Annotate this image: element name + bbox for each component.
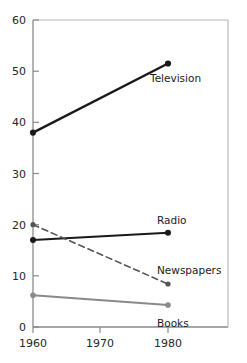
marker-television-1980 bbox=[165, 60, 171, 66]
series-line-television bbox=[33, 63, 168, 132]
y-axis-tick-labels: 60 50 40 30 20 10 0 bbox=[12, 14, 26, 334]
series-labels: Television Radio Newspapers Books bbox=[149, 72, 221, 329]
y-tick-label-0: 0 bbox=[19, 321, 26, 334]
marker-radio-1960 bbox=[30, 237, 36, 243]
series-label-books: Books bbox=[157, 317, 189, 329]
marker-newspapers-1960 bbox=[30, 222, 35, 227]
x-axis-ticks bbox=[33, 327, 168, 333]
chart-svg: 60 50 40 30 20 10 0 1960 1970 1980 bbox=[0, 0, 247, 363]
y-tick-label-30: 30 bbox=[12, 168, 26, 181]
marker-radio-1980 bbox=[165, 230, 171, 236]
x-tick-label-1970: 1970 bbox=[86, 337, 114, 350]
y-tick-label-60: 60 bbox=[12, 14, 26, 27]
series-line-books bbox=[33, 295, 168, 305]
y-tick-label-40: 40 bbox=[12, 116, 26, 129]
line-chart: 60 50 40 30 20 10 0 1960 1970 1980 bbox=[0, 0, 247, 363]
axes-frame bbox=[33, 20, 228, 327]
series-lines bbox=[33, 63, 168, 305]
y-tick-label-20: 20 bbox=[12, 219, 26, 232]
marker-books-1960 bbox=[30, 292, 36, 298]
marker-television-1960 bbox=[30, 129, 36, 135]
marker-newspapers-1980 bbox=[165, 281, 170, 286]
x-tick-label-1960: 1960 bbox=[19, 337, 47, 350]
y-tick-label-50: 50 bbox=[12, 65, 26, 78]
y-axis-ticks bbox=[33, 20, 39, 327]
x-axis-tick-labels: 1960 1970 1980 bbox=[19, 337, 182, 350]
series-label-television: Television bbox=[149, 72, 201, 84]
series-label-newspapers: Newspapers bbox=[157, 264, 221, 276]
marker-books-1980 bbox=[165, 302, 171, 308]
x-tick-label-1980: 1980 bbox=[154, 337, 182, 350]
series-label-radio: Radio bbox=[157, 214, 187, 226]
y-tick-label-10: 10 bbox=[12, 270, 26, 283]
